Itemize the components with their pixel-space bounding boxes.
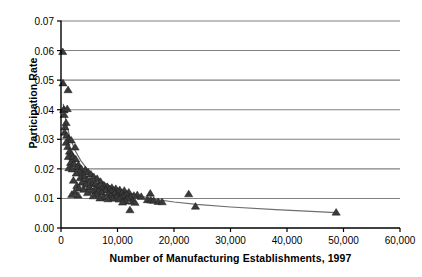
x-axis-title: Number of Manufacturing Establishments, …: [61, 252, 400, 264]
data-point-marker: [332, 209, 340, 216]
x-tick-label: 20,000: [159, 235, 190, 246]
x-tick-label: 0: [58, 235, 64, 246]
data-point-marker: [185, 190, 193, 197]
y-tick-label: 0.00: [10, 223, 54, 234]
data-point-marker: [64, 86, 72, 93]
scatter-chart: 0.000.010.020.030.040.050.060.07 010,000…: [0, 0, 422, 277]
data-markers: [59, 48, 341, 215]
x-tick-label: 30,000: [215, 235, 246, 246]
data-point-marker: [146, 190, 154, 197]
data-point-marker: [69, 177, 77, 184]
y-axis-title: Participation Rate: [27, 23, 39, 183]
data-point-marker: [62, 119, 70, 126]
data-point-marker: [59, 48, 67, 55]
x-tick-label: 60,000: [385, 235, 416, 246]
x-tick-label: 10,000: [102, 235, 133, 246]
x-tick-label: 50,000: [328, 235, 359, 246]
y-tick-label: 0.01: [10, 193, 54, 204]
gridlines: [61, 21, 400, 198]
data-point-marker: [126, 206, 134, 213]
x-tick-label: 40,000: [272, 235, 303, 246]
